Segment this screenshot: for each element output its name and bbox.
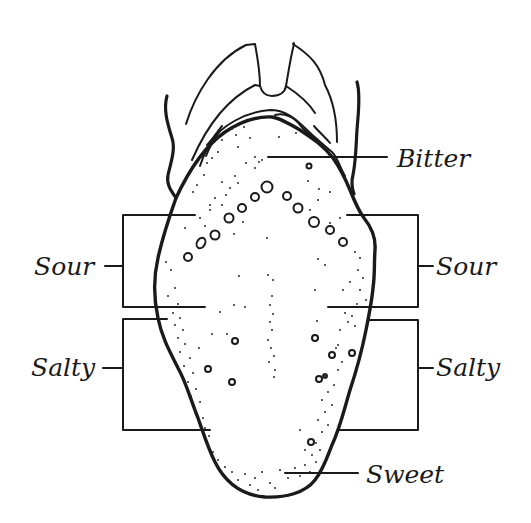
right-cheek-outline — [352, 82, 359, 194]
salty-right-bracket — [338, 320, 418, 430]
label-sweet: Sweet — [366, 462, 444, 487]
circumvallate-papillae — [184, 164, 347, 262]
label-bitter: Bitter — [397, 146, 470, 171]
label-salty-left: Salty — [31, 355, 95, 380]
label-salty-right: Salty — [436, 355, 500, 380]
left-cheek-outline — [166, 96, 176, 198]
label-sour-left: Sour — [34, 254, 94, 279]
sour-left-bracket — [123, 215, 205, 307]
label-sour-right: Sour — [436, 254, 496, 279]
fungiform-papillae — [205, 335, 355, 445]
label-leader-lines — [103, 157, 433, 473]
